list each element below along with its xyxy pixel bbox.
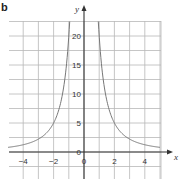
chart-plot: xy−4−202405101520 (0, 0, 184, 179)
y-tick-label: 15 (72, 61, 81, 70)
x-axis-arrow-icon (167, 150, 173, 155)
y-tick-label: 10 (72, 90, 81, 99)
x-tick-label: −2 (49, 157, 59, 166)
y-axis-arrow-icon (82, 5, 87, 11)
y-axis-label: y (74, 4, 79, 14)
x-tick-label: 0 (82, 157, 87, 166)
y-tick-label: 5 (77, 119, 82, 128)
curve-left-branch (8, 22, 70, 148)
curve-right-branch (98, 22, 160, 148)
x-tick-label: 4 (143, 157, 148, 166)
y-tick-label: 20 (72, 32, 81, 41)
x-axis-label: x (173, 152, 178, 162)
x-tick-label: 2 (112, 157, 117, 166)
x-tick-label: −4 (19, 157, 29, 166)
y-tick-label: 0 (77, 148, 82, 157)
